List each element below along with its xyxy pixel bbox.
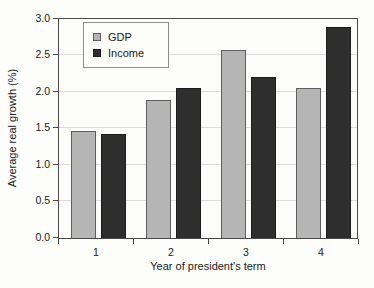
legend-swatch-income-icon — [93, 49, 101, 57]
y-tick-label-3.0: 3.0 — [24, 12, 50, 24]
x-tick-3 — [283, 239, 284, 244]
bar-gdp-year-4 — [296, 88, 321, 238]
y-tick-2.0 — [53, 91, 58, 92]
legend-item-gdp: GDP — [93, 29, 160, 45]
y-tick-label-2.5: 2.5 — [24, 48, 50, 60]
x-tick-1 — [133, 239, 134, 244]
x-tick-label-4: 4 — [306, 246, 336, 258]
x-tick-label-2: 2 — [156, 246, 186, 258]
x-tick-2 — [208, 239, 209, 244]
bar-gdp-year-1 — [71, 131, 96, 238]
x-tick-label-1: 1 — [81, 246, 111, 258]
y-tick-0.5 — [53, 200, 58, 201]
y-tick-label-1.0: 1.0 — [24, 158, 50, 170]
bar-income-year-3 — [251, 77, 276, 238]
y-tick-label-0.5: 0.5 — [24, 194, 50, 206]
bar-gdp-year-3 — [221, 50, 246, 238]
x-axis-title: Year of president's term — [58, 260, 358, 272]
bar-income-year-4 — [326, 27, 351, 238]
grouped-bar-chart-figure: Average real growth (%) 0.00.51.01.52.02… — [0, 0, 374, 288]
y-tick-0.0 — [53, 237, 58, 238]
bar-gdp-year-2 — [146, 100, 171, 238]
y-tick-2.5 — [53, 54, 58, 55]
legend: GDPIncome — [83, 22, 169, 68]
legend-label-gdp: GDP — [108, 31, 132, 43]
y-tick-label-2.0: 2.0 — [24, 85, 50, 97]
legend-swatch-gdp-icon — [93, 33, 101, 41]
x-tick-4 — [358, 239, 359, 244]
y-tick-label-0.0: 0.0 — [24, 231, 50, 243]
x-tick-label-3: 3 — [231, 246, 261, 258]
y-axis-title: Average real growth (%) — [6, 28, 20, 228]
y-tick-label-1.5: 1.5 — [24, 121, 50, 133]
bar-income-year-1 — [101, 134, 126, 238]
legend-item-income: Income — [93, 45, 160, 61]
y-tick-1.5 — [53, 127, 58, 128]
legend-label-income: Income — [108, 47, 144, 59]
y-tick-1.0 — [53, 164, 58, 165]
bar-income-year-2 — [176, 88, 201, 238]
x-tick-0 — [58, 239, 59, 244]
y-tick-3.0 — [53, 18, 58, 19]
